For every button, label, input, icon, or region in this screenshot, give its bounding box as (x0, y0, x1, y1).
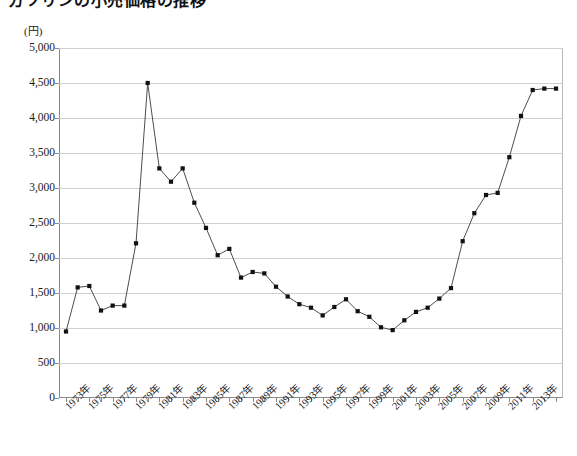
y-axis-tick-label: 3,500 (3, 147, 55, 159)
data-point-marker (227, 247, 231, 251)
y-axis-tick-label: 3,000 (3, 182, 55, 194)
data-point-marker (157, 166, 161, 170)
data-point-marker (332, 305, 336, 309)
data-point-marker (542, 87, 546, 91)
data-point-marker (76, 285, 80, 289)
data-point-marker (274, 285, 278, 289)
data-point-marker (87, 284, 91, 288)
gasoline-price-line-chart: ガソリンの小売価格の推移 (円) 05001,0001,5002,0002,50… (0, 0, 577, 456)
data-point-marker (496, 191, 500, 195)
data-point-marker (426, 306, 430, 310)
data-point-marker (461, 239, 465, 243)
price-series-markers (64, 81, 558, 334)
y-axis-tick-label: 1,500 (3, 287, 55, 299)
data-point-marker (251, 270, 255, 274)
data-point-marker (321, 313, 325, 317)
data-point-marker (519, 114, 523, 118)
y-axis-tick-label: 1,000 (3, 322, 55, 334)
plot-area (59, 48, 563, 398)
data-point-marker (449, 286, 453, 290)
y-axis-tick-label: 5,000 (3, 42, 55, 54)
data-point-marker (367, 315, 371, 319)
data-point-marker (414, 310, 418, 314)
data-point-marker (216, 253, 220, 257)
data-point-marker (309, 306, 313, 310)
data-point-marker (111, 304, 115, 308)
data-point-marker (99, 308, 103, 312)
data-point-marker (181, 166, 185, 170)
y-axis-tick-label: 500 (3, 357, 55, 369)
x-axis-tick-labels: 1973年1975年1977年1979年1981年1983年1985年1987年… (0, 398, 577, 456)
data-point-marker (146, 81, 150, 85)
data-point-marker (437, 297, 441, 301)
data-point-marker (262, 271, 266, 275)
data-point-marker (472, 211, 476, 215)
data-point-marker (356, 309, 360, 313)
data-point-marker (344, 297, 348, 301)
data-point-marker (391, 328, 395, 332)
data-point-marker (169, 180, 173, 184)
data-point-marker (286, 294, 290, 298)
data-point-marker (192, 201, 196, 205)
data-point-marker (484, 193, 488, 197)
data-point-marker (64, 329, 68, 333)
data-point-marker (122, 304, 126, 308)
data-point-marker (204, 226, 208, 230)
y-axis-tick-label: 4,500 (3, 77, 55, 89)
chart-title: ガソリンの小売価格の推移 (8, 0, 206, 11)
data-point-marker (531, 88, 535, 92)
y-axis-tick-labels: 05001,0001,5002,0002,5003,0003,5004,0004… (0, 48, 55, 398)
price-series-line (66, 83, 556, 332)
y-axis-unit-label: (円) (24, 22, 42, 38)
data-point-marker (554, 87, 558, 91)
data-point-marker (379, 325, 383, 329)
price-series (59, 48, 563, 398)
y-axis-tick-label: 2,500 (3, 217, 55, 229)
y-axis-tick-label: 4,000 (3, 112, 55, 124)
data-point-marker (239, 276, 243, 280)
data-point-marker (507, 155, 511, 159)
data-point-marker (297, 302, 301, 306)
y-axis-tick-label: 2,000 (3, 252, 55, 264)
data-point-marker (402, 318, 406, 322)
data-point-marker (134, 241, 138, 245)
